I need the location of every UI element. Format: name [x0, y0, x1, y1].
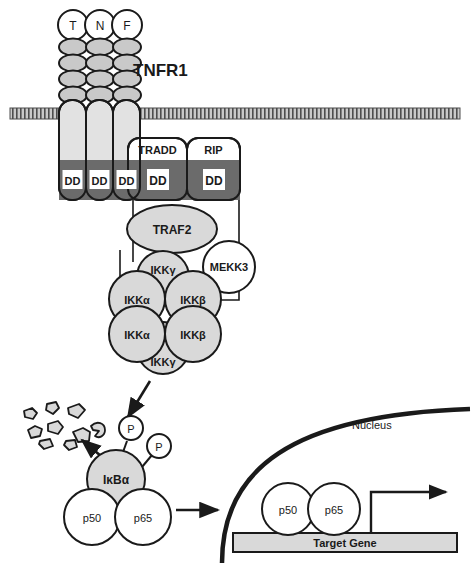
ikk-beta-lower-label: IKKβ	[180, 329, 206, 341]
target-gene-label: Target Gene	[313, 537, 376, 549]
tnfr1-nfkb-pathway-diagram: T N F TNFR1 TRADD RIP	[0, 0, 471, 563]
nucleus-label: Nucleus	[352, 419, 392, 431]
tnfr1-label: TNFR1	[133, 61, 188, 80]
p50-cytoplasm-label: p50	[83, 512, 101, 524]
ikk-gamma-bottom-label: IKKγ	[150, 356, 176, 368]
ikk-alpha-lower-label: IKKα	[124, 329, 150, 341]
tnf-subunit-t-label: T	[69, 19, 77, 33]
tnf-subunit-n-label: N	[96, 19, 105, 33]
tnf-subunit-f-label: F	[123, 19, 130, 33]
dd-chip-tradd: DD	[149, 174, 167, 188]
ikk-alpha-upper-label: IKKα	[124, 294, 150, 306]
ikk-gamma-top-label: IKKγ	[150, 264, 176, 276]
traf2-label: TRAF2	[153, 223, 192, 237]
tnf-ligand-trimer: T N F	[58, 10, 142, 40]
ikba-degradation-fragments	[24, 402, 105, 450]
p65-cytoplasm-label: p65	[134, 512, 152, 524]
tradd-label: TRADD	[138, 144, 177, 156]
ikba-label: IκBα	[103, 473, 130, 487]
mekk3-label: MEKK3	[210, 261, 249, 273]
pathway-canvas: T N F TNFR1 TRADD RIP	[0, 0, 471, 563]
ikk-beta-upper-label: IKKβ	[180, 294, 206, 306]
receptor-crd-stacks	[59, 39, 141, 104]
target-gene-bar: Target Gene	[233, 533, 457, 552]
phospho-label-1: P	[127, 423, 134, 435]
nfkb-nuclear-dimer: p50 p65	[262, 483, 360, 535]
dd-chip-rip: DD	[205, 174, 223, 188]
dd-chip-receptor-3: DD	[119, 175, 135, 187]
dd-chip-receptor-1: DD	[65, 175, 81, 187]
p50-nucleus-label: p50	[279, 504, 297, 516]
phospho-label-2: P	[155, 441, 162, 453]
rip-label: RIP	[204, 144, 222, 156]
arrow-ikk-to-ikba	[128, 381, 150, 417]
dd-chip-receptor-2: DD	[92, 175, 108, 187]
traf2-node: TRAF2	[127, 205, 217, 253]
transcription-arrow	[371, 492, 446, 533]
p65-nucleus-label: p65	[325, 504, 343, 516]
